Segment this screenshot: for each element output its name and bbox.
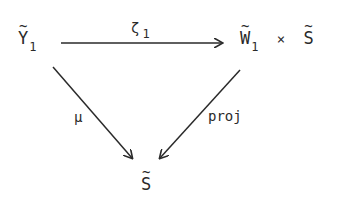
y-subscript: 1 xyxy=(29,40,36,54)
mu-label: μ xyxy=(74,110,82,124)
zeta-subscript: 1 xyxy=(142,27,149,41)
mu-arrow xyxy=(53,67,132,158)
s-bottom-symbol: S xyxy=(141,176,151,193)
y-symbol: Y xyxy=(18,30,28,47)
node-s: S xyxy=(141,176,151,193)
w-subscript: 1 xyxy=(251,40,258,54)
node-w1-times-s: W1 × S xyxy=(240,30,314,47)
w-symbol: W xyxy=(240,30,250,47)
times-symbol: × xyxy=(277,31,285,47)
proj-label: proj xyxy=(208,109,242,123)
s-symbol: S xyxy=(303,30,313,47)
zeta-symbol: ζ xyxy=(131,20,139,36)
node-y1: Y1 xyxy=(18,30,36,47)
zeta-label: ζ1 xyxy=(131,21,150,35)
